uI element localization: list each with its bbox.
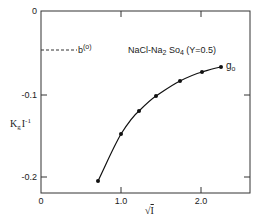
y-tick-label: -0.2 bbox=[21, 172, 37, 182]
chart: 0 -0.1 -0.2 0 1.0 2.0 KgI-1 √I b(o) NaCl… bbox=[0, 0, 264, 218]
data-points bbox=[96, 65, 223, 183]
series-label: go bbox=[226, 60, 236, 72]
x-tick-label: 1.0 bbox=[115, 196, 128, 206]
y-tick-label: -0.1 bbox=[21, 90, 37, 100]
y-axis-label: KgI-1 bbox=[10, 117, 31, 131]
series-curve bbox=[98, 67, 221, 181]
b0-label: b(o) bbox=[78, 43, 92, 55]
data-point bbox=[137, 109, 141, 113]
data-point bbox=[154, 94, 158, 98]
data-point bbox=[96, 179, 100, 183]
plot-frame bbox=[41, 11, 250, 193]
system-annotation: NaCl-Na2 So4 (Y=0.5) bbox=[128, 45, 216, 56]
y-tick-label: 0 bbox=[32, 6, 37, 16]
x-tick-label: 0 bbox=[38, 196, 43, 206]
data-point bbox=[200, 70, 204, 74]
x-axis-label: √I bbox=[145, 205, 154, 216]
x-tick-label: 2.0 bbox=[195, 196, 208, 206]
data-point bbox=[219, 65, 223, 69]
data-point bbox=[119, 132, 123, 136]
data-point bbox=[178, 79, 182, 83]
